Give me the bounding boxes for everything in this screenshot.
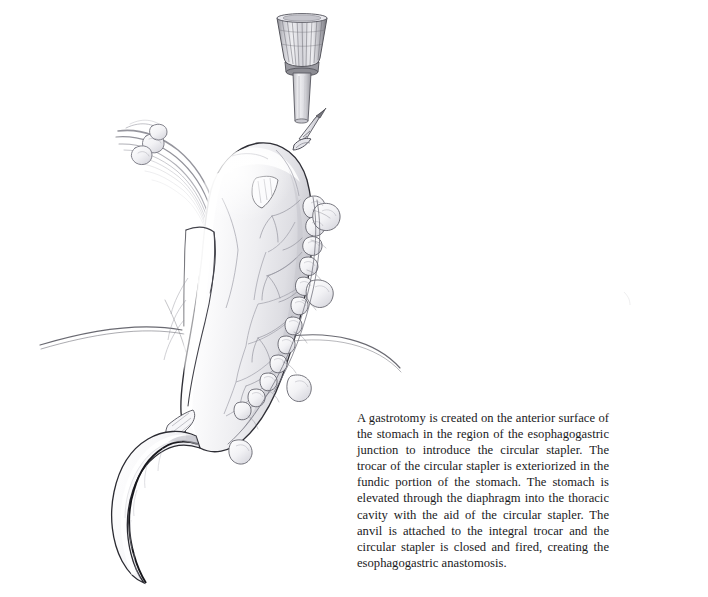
illustration-page: A gastrotomy is created on the anterior … — [0, 0, 708, 597]
figure-caption: A gastrotomy is created on the anterior … — [357, 410, 609, 571]
stapler-shaft — [293, 73, 311, 123]
